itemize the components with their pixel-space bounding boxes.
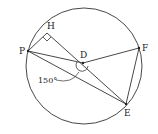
geometry-diagram: P H D F E 150° [0,0,158,134]
point-D [82,62,84,64]
segment-FE [126,48,139,104]
right-angle-marker [43,37,51,41]
label-E: E [124,108,131,118]
angle-pointer [56,72,79,81]
segment-DF [83,48,139,63]
segment-HE [47,33,126,104]
label-P: P [19,46,25,56]
point-P [27,50,29,52]
angle-label: 150° [38,76,57,85]
point-E [125,103,127,105]
point-F [138,47,140,49]
segment-PD [28,51,83,63]
label-D: D [80,50,87,60]
label-H: H [47,21,55,31]
label-F: F [142,43,148,53]
